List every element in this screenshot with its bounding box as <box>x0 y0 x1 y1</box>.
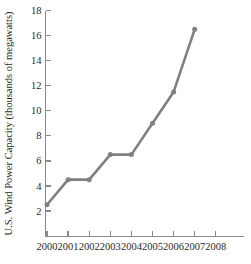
y-axis-tick-label: 8 <box>36 130 41 141</box>
x-axis-tick-label: 2006 <box>163 241 184 252</box>
x-axis-tick-label: 2005 <box>142 241 163 252</box>
x-axis-tick-label: 2004 <box>121 241 143 252</box>
data-point-marker <box>45 202 50 207</box>
chart-axes <box>46 11 244 237</box>
y-axis-tick-label: 6 <box>36 155 41 166</box>
y-axis-title: U.S. Wind Power Capacity (thousands of m… <box>3 11 15 235</box>
data-point-marker <box>192 27 197 32</box>
y-axis-tick-label: 4 <box>36 181 42 192</box>
wind-power-capacity-chart: 2468101214161820002001200220032004200520… <box>0 0 251 264</box>
data-point-marker <box>87 177 92 182</box>
y-axis-tick-label: 10 <box>31 105 42 116</box>
x-axis-tick-label: 2007 <box>184 241 205 252</box>
x-axis-tick-label: 2000 <box>37 241 58 252</box>
data-point-marker <box>129 152 134 157</box>
x-axis-tick-label: 2002 <box>79 241 100 252</box>
chart-canvas: 2468101214161820002001200220032004200520… <box>0 0 251 264</box>
x-axis-tick-label: 2008 <box>205 241 226 252</box>
y-axis-tick-label: 12 <box>31 80 42 91</box>
data-point-marker <box>66 177 71 182</box>
y-axis-tick-label: 16 <box>31 30 42 41</box>
data-point-marker <box>150 121 155 126</box>
data-point-marker <box>108 152 113 157</box>
x-axis-tick-label: 2001 <box>58 241 79 252</box>
y-axis-tick-label: 2 <box>36 206 41 217</box>
y-axis-tick-label: 18 <box>31 5 42 16</box>
x-axis-tick-label: 2003 <box>100 241 121 252</box>
data-point-marker <box>171 89 176 94</box>
y-axis-tick-label: 14 <box>31 55 42 66</box>
